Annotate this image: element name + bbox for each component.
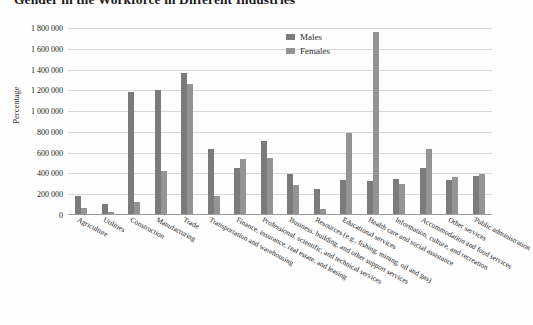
legend-item-males: Males [286,31,330,43]
legend-item-females: Females [286,45,330,57]
bar-group [413,28,440,215]
bar-females [187,84,193,215]
plot-area: 1 800 0001 600 0001 400 0001 200 0001 00… [68,28,492,215]
bar-group [360,28,387,215]
bar-group [148,28,175,215]
y-axis-tick-label: 1 000 000 [31,107,63,116]
bar-group [201,28,228,215]
y-axis-tick-label: 800 000 [37,127,63,136]
y-axis-tick-label: 600 000 [37,148,63,157]
bar-group [439,28,466,215]
legend: Males Females [286,31,330,59]
legend-swatch-icon-males [286,34,295,40]
bar-females [293,185,299,215]
y-axis-tick-label: 200 000 [37,190,63,199]
x-axis-labels: AgricultureUtilitiesConstructionManufact… [68,215,492,325]
bar-females [479,174,485,215]
bar-group [227,28,254,215]
bar-group [174,28,201,215]
bar-females [399,184,405,215]
bar-females [267,158,273,215]
bar-group [254,28,281,215]
bar-females [161,171,167,215]
bar-group [333,28,360,215]
bar-males [128,92,134,215]
legend-swatch-icon-females [286,48,295,54]
bar-group [386,28,413,215]
y-axis-title: Percentage [11,65,21,145]
bar-females [134,202,140,216]
y-axis-tick-label: 1 400 000 [31,65,63,74]
bar-females [240,159,246,215]
bar-group [68,28,95,215]
bar-females [373,32,379,215]
bar-females [214,196,220,215]
bar-females [426,149,432,215]
bar-group [95,28,122,215]
bar-groups [68,28,492,215]
legend-label-females: Females [300,45,330,57]
bar-females [346,133,352,215]
y-axis-tick-label: 1 600 000 [31,44,63,53]
bar-group [466,28,493,215]
y-axis-tick-label: 1 800 000 [31,24,63,33]
bar-females [452,177,458,215]
y-axis-tick-label: 1 200 000 [31,86,63,95]
legend-label-males: Males [300,31,322,43]
bar-group [121,28,148,215]
y-axis-tick-label: 400 000 [37,169,63,178]
chart-title: Gender in the Workforce in Different Ind… [14,0,494,8]
y-axis-tick-label: 0 [59,211,63,220]
